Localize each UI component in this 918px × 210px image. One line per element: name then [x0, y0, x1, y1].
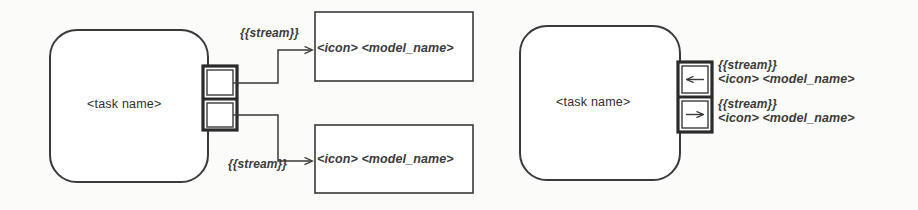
right-port-in-model-text: <icon> <model_name> — [718, 73, 855, 86]
right-port-out-stream-label: {{stream}} — [718, 98, 777, 111]
right-task-name: <task name> — [556, 96, 630, 109]
connector-top-stream-label: {{stream}} — [240, 27, 299, 40]
connector-top[interactable] — [233, 50, 312, 83]
right-port-in-stream-label: {{stream}} — [718, 59, 777, 72]
connector-bottom[interactable] — [233, 115, 312, 161]
left-port-bottom[interactable] — [207, 103, 233, 127]
model-box-bottom-text: <icon> <model_name> — [317, 153, 454, 166]
connector-bottom-stream-label: {{stream}} — [228, 158, 287, 171]
right-port-out[interactable] — [682, 101, 708, 128]
model-box-top-text: <icon> <model_name> — [317, 42, 454, 55]
right-port-group — [678, 62, 712, 132]
diagram-canvas: <task name> {{stream}} {{stream}} <icon>… — [0, 0, 918, 210]
right-port-out-model-text: <icon> <model_name> — [718, 112, 855, 125]
left-task-name: <task name> — [87, 98, 161, 111]
left-port-top[interactable] — [207, 70, 233, 95]
right-port-in[interactable] — [682, 66, 708, 93]
left-port-group — [203, 66, 237, 130]
